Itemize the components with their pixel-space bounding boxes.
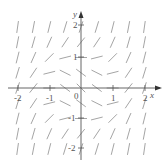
slope-segment bbox=[16, 36, 18, 48]
slope-field-diagram: -2 -1 1 2 2 1 -1 -2 0 x y bbox=[0, 0, 168, 165]
slope-segment bbox=[16, 67, 20, 78]
slope-segment bbox=[143, 67, 147, 78]
slope-segment bbox=[16, 113, 19, 125]
x-tick-label: -1 bbox=[46, 93, 54, 103]
slope-segment bbox=[143, 128, 145, 140]
slope-segment bbox=[143, 36, 145, 48]
slope-segment bbox=[45, 53, 53, 61]
slope-segment bbox=[91, 56, 103, 59]
slope-segment bbox=[110, 37, 115, 48]
slope-segment bbox=[95, 143, 99, 154]
slope-segment bbox=[16, 128, 18, 140]
slope-segment bbox=[31, 52, 36, 63]
slope-segment bbox=[107, 71, 119, 74]
y-tick-label: -2 bbox=[68, 143, 76, 153]
slope-segment bbox=[60, 70, 71, 75]
slope-segment bbox=[110, 128, 115, 139]
slope-segment bbox=[125, 68, 132, 78]
slope-segment bbox=[63, 143, 67, 154]
slope-segment bbox=[127, 21, 129, 33]
origin-label: 0 bbox=[74, 91, 79, 101]
slope-segment bbox=[126, 113, 131, 124]
x-tick-label: -2 bbox=[14, 93, 22, 103]
slope-segment bbox=[60, 101, 71, 106]
x-axis-arrow-icon bbox=[155, 86, 162, 91]
slope-segment bbox=[47, 128, 52, 139]
slope-segment bbox=[32, 36, 35, 48]
y-tick-label: 1 bbox=[73, 52, 78, 62]
slope-segment bbox=[127, 36, 130, 48]
slope-segment bbox=[91, 101, 102, 106]
slope-segment bbox=[48, 21, 51, 33]
slope-segment bbox=[59, 56, 71, 59]
slope-segment bbox=[144, 143, 146, 155]
slope-segment bbox=[32, 21, 34, 33]
slope-segment bbox=[32, 128, 35, 140]
slope-segment bbox=[94, 129, 101, 139]
slope-segment bbox=[62, 129, 69, 139]
axis-ticks bbox=[18, 25, 145, 148]
slope-segment bbox=[45, 114, 53, 122]
slope-segment bbox=[47, 37, 52, 48]
y-tick-label: -1 bbox=[68, 113, 76, 123]
slope-segment bbox=[17, 21, 19, 33]
slope-segment bbox=[17, 143, 19, 155]
slope-segment bbox=[143, 113, 146, 125]
slope-segment bbox=[111, 143, 114, 155]
slope-segment bbox=[62, 37, 69, 47]
slope-segment bbox=[126, 52, 131, 63]
slope-segment bbox=[32, 143, 34, 155]
slope-segment bbox=[48, 143, 51, 155]
slope-segment bbox=[63, 21, 67, 32]
slope-segment bbox=[91, 70, 102, 75]
slope-segment bbox=[108, 53, 116, 61]
slope-segment bbox=[127, 143, 129, 155]
slope-segment bbox=[125, 98, 132, 108]
slope-segment bbox=[127, 128, 130, 140]
y-axis-label: y bbox=[72, 9, 77, 19]
slope-segment bbox=[43, 71, 55, 74]
slope-segment bbox=[94, 37, 101, 47]
slope-segment bbox=[91, 117, 103, 120]
slope-segment bbox=[143, 52, 146, 64]
slope-segment bbox=[30, 98, 37, 108]
y-axis-arrow-icon bbox=[79, 11, 84, 18]
x-tick-label: 2 bbox=[143, 93, 148, 103]
y-axis bbox=[79, 11, 84, 160]
slope-segment bbox=[144, 21, 146, 33]
y-tick-label: 2 bbox=[73, 20, 78, 30]
x-axis-label: x bbox=[149, 90, 154, 100]
slope-segment bbox=[95, 21, 99, 32]
slope-segment bbox=[16, 52, 19, 64]
slope-segment bbox=[111, 21, 114, 33]
slope-segment bbox=[31, 113, 36, 124]
x-axis bbox=[8, 86, 162, 91]
slope-segment bbox=[108, 114, 116, 122]
slope-segment bbox=[30, 68, 37, 78]
x-tick-label: 1 bbox=[111, 93, 116, 103]
